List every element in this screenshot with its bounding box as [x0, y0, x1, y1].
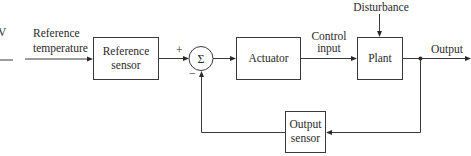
minus-sign: −	[189, 67, 196, 79]
reference-temperature-label-line1: Reference	[33, 27, 80, 39]
edge-fragment: V	[0, 26, 13, 60]
arrowhead-icon	[326, 130, 332, 135]
reference-temperature-input: Reference temperature	[25, 27, 93, 62]
arrowhead-icon	[87, 57, 93, 62]
control-input-label-line1: Control	[311, 30, 346, 42]
edge-fragment-glyph: V	[0, 26, 7, 38]
arrowhead-icon	[183, 56, 189, 61]
control-input-label-line2: input	[317, 42, 341, 55]
arrowhead-icon	[465, 56, 471, 61]
output-sensor-label-line1: Output	[290, 118, 323, 131]
disturbance-label: Disturbance	[353, 1, 409, 13]
output-label: Output	[431, 43, 464, 56]
arrowhead-icon	[199, 71, 204, 77]
actuator-block[interactable]: Actuator	[237, 38, 301, 80]
arrowhead-icon	[377, 31, 382, 37]
plant-block[interactable]: Plant	[358, 38, 403, 80]
arrowhead-icon	[351, 56, 357, 61]
output-sensor-label-line2: sensor	[291, 132, 321, 144]
reference-sensor-label-line2: sensor	[111, 59, 141, 71]
plus-sign: +	[176, 44, 183, 56]
reference-sensor-label-line1: Reference	[103, 45, 150, 57]
reference-sensor-block[interactable]: Reference sensor	[94, 38, 159, 80]
feedback-wire-to-sum	[202, 74, 286, 133]
arrowhead-icon	[230, 56, 236, 61]
control-block-diagram: V Reference temperature Reference sensor…	[0, 0, 471, 156]
reference-temperature-label-line2: temperature	[33, 42, 88, 55]
plant-label: Plant	[368, 52, 392, 64]
actuator-label: Actuator	[248, 52, 288, 64]
output-sensor-block[interactable]: Output sensor	[286, 112, 326, 153]
sigma-icon: Σ	[198, 52, 205, 66]
